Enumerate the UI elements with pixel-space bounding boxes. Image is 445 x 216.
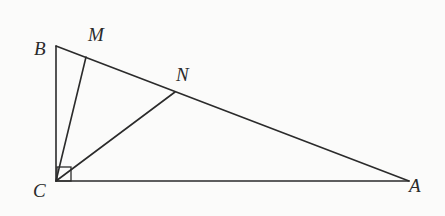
label-c: C xyxy=(33,180,46,201)
segment-ba xyxy=(56,46,409,181)
label-n: N xyxy=(175,64,190,85)
label-b: B xyxy=(34,38,46,59)
label-m: M xyxy=(87,24,105,45)
label-a: A xyxy=(407,175,421,196)
geometry-diagram: B M N C A xyxy=(0,0,445,216)
triangle-abc xyxy=(56,46,409,181)
